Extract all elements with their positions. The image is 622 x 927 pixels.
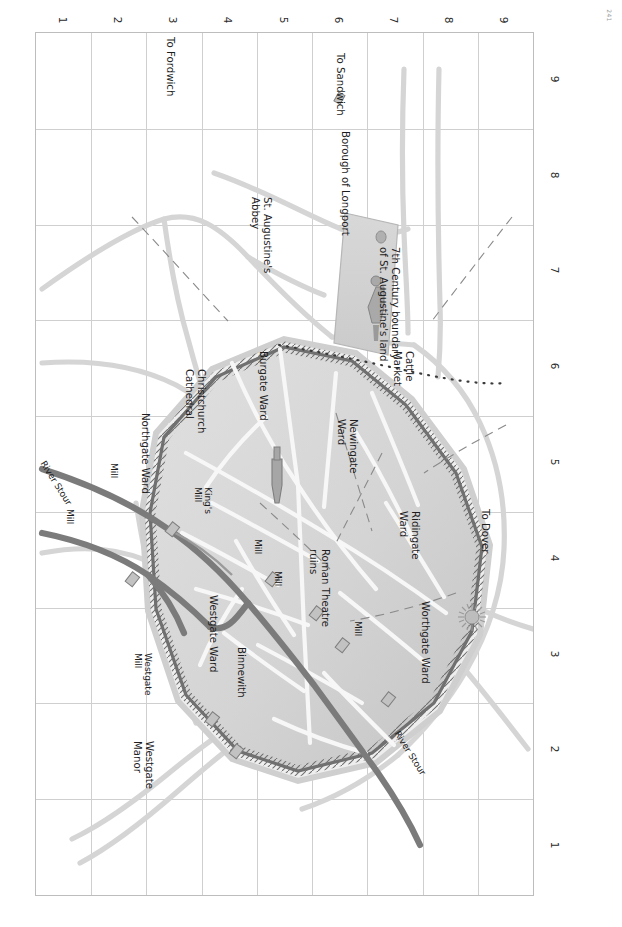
grid-column-label: 1 <box>549 834 561 856</box>
grid-column-label: 8 <box>549 164 561 186</box>
grid-row-label: 1 <box>57 9 69 31</box>
gate-sunburst-icon <box>458 603 486 631</box>
grid-column-label: 3 <box>549 643 561 665</box>
grid-column-label: 9 <box>549 68 561 90</box>
map-artwork <box>36 33 533 895</box>
grid-column-label: 2 <box>549 738 561 760</box>
christchurch-cathedral-icon <box>272 447 282 503</box>
grid-row-label: 6 <box>333 9 345 31</box>
grid-row-label: 2 <box>112 9 124 31</box>
page-number: 241 <box>606 9 613 22</box>
grid-row-label: 9 <box>498 9 510 31</box>
st-augustines-abbey-precinct <box>334 213 398 355</box>
grid-column-label: 5 <box>549 451 561 473</box>
grid-row-label: 4 <box>222 9 234 31</box>
grid-column-label: 4 <box>549 547 561 569</box>
grid-row-label: 7 <box>388 9 400 31</box>
grid-row-label: 5 <box>278 9 290 31</box>
grid-column-label: 7 <box>549 259 561 281</box>
grid-row-label: 8 <box>443 9 455 31</box>
map-frame: To FordwichTo SandwichTo Sturry and Ford… <box>35 32 534 896</box>
grid-column-label: 6 <box>549 355 561 377</box>
grid-row-label: 3 <box>167 9 179 31</box>
